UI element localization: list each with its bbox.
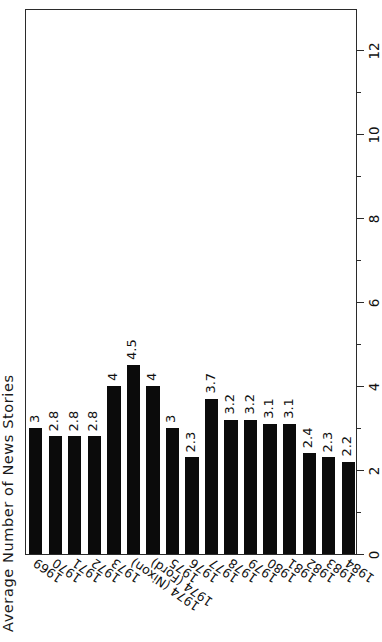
- bar-value-label: 3.1: [262, 398, 275, 419]
- axis-tick-label: 8: [368, 215, 382, 224]
- bar: [127, 365, 140, 554]
- bar-value-label: 2.2: [340, 436, 353, 457]
- bar: [322, 457, 335, 554]
- bar: [224, 420, 237, 554]
- axis-tick: [357, 554, 364, 555]
- bar: [146, 386, 159, 554]
- axis-tick: [357, 470, 364, 471]
- bar-value-label: 4.5: [125, 339, 138, 360]
- axis-minor-tick: [357, 512, 361, 513]
- bar: [166, 428, 179, 554]
- bar: [185, 457, 198, 554]
- axis-tick-label: 4: [368, 383, 382, 392]
- bar-value-label: 3.7: [204, 373, 217, 394]
- bar: [303, 453, 316, 554]
- axis-tick-label: 12: [368, 42, 382, 59]
- axis-tick: [357, 50, 364, 51]
- axis-tick-label: 10: [368, 126, 382, 143]
- bar: [68, 436, 81, 554]
- bar-value-label: 4: [106, 373, 119, 381]
- bar-value-label: 3: [28, 415, 41, 423]
- bar: [342, 462, 355, 554]
- bar: [283, 424, 296, 554]
- axis-minor-tick: [357, 176, 361, 177]
- bar-value-label: 2.8: [86, 411, 99, 432]
- bar: [205, 399, 218, 554]
- axis-tick: [357, 218, 364, 219]
- bar-value-label: 2.3: [184, 432, 197, 453]
- rotated-figure-canvas: Average Number of News Stories 024681012…: [0, 0, 382, 642]
- axis-tick-label: 0: [368, 551, 382, 560]
- axis-minor-tick: [357, 344, 361, 345]
- bar: [263, 424, 276, 554]
- bar: [107, 386, 120, 554]
- axis-tick: [357, 302, 364, 303]
- axis-minor-tick: [357, 260, 361, 261]
- bar: [29, 428, 42, 554]
- bar-value-label: 3.2: [243, 394, 256, 415]
- bar-value-label: 4: [145, 373, 158, 381]
- axis-minor-tick: [357, 428, 361, 429]
- y-axis-title: Average Number of News Stories: [0, 0, 24, 632]
- plot-frame: [25, 9, 357, 555]
- bar-value-label: 3: [164, 415, 177, 423]
- bar: [49, 436, 62, 554]
- bar-value-label: 3.2: [223, 394, 236, 415]
- bar-value-label: 2.4: [301, 428, 314, 449]
- bar-value-label: 2.8: [47, 411, 60, 432]
- bar: [244, 420, 257, 554]
- bar-value-label: 2.8: [67, 411, 80, 432]
- bar-value-label: 3.1: [282, 398, 295, 419]
- bar: [88, 436, 101, 554]
- axis-tick-label: 6: [368, 299, 382, 308]
- bar-value-label: 2.3: [321, 432, 334, 453]
- bar-chart-figure: Average Number of News Stories 024681012…: [0, 0, 382, 642]
- axis-tick: [357, 386, 364, 387]
- axis-minor-tick: [357, 92, 361, 93]
- axis-tick-label: 2: [368, 467, 382, 476]
- axis-tick: [357, 134, 364, 135]
- plot-area: [26, 10, 356, 554]
